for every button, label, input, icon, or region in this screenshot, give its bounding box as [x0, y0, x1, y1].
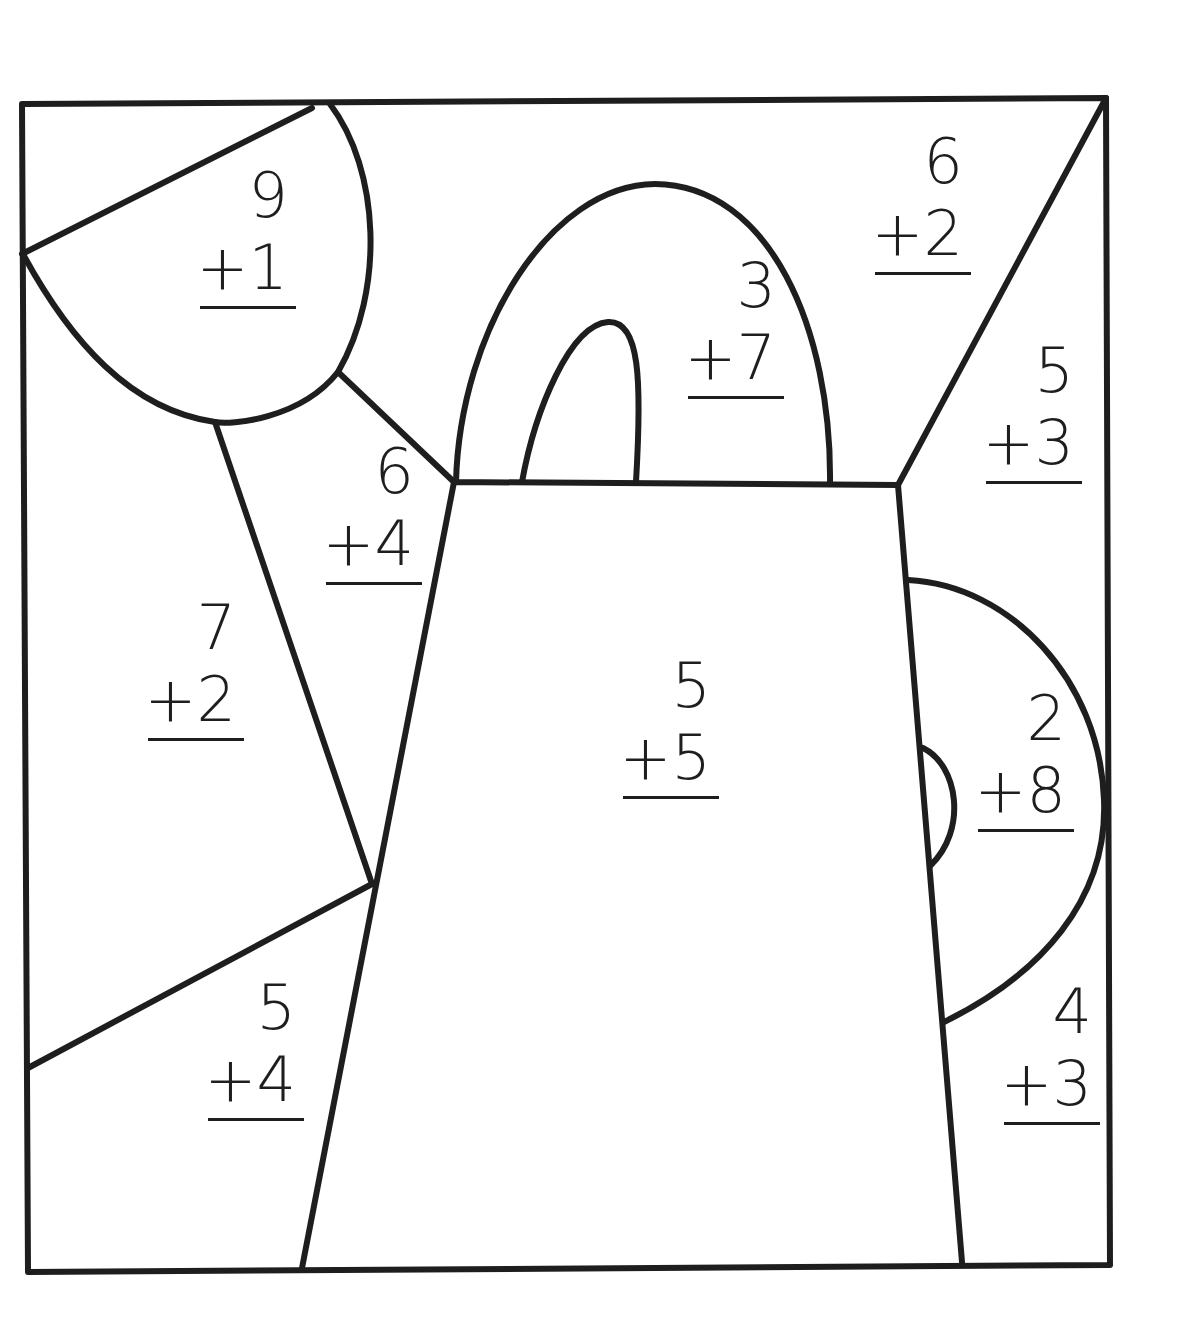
problem-left-side: 7 +2 [130, 592, 250, 741]
problem-bottom-right: 4 +3 [986, 976, 1106, 1125]
coloring-worksheet: 9 +1 3 +7 6 +2 5 +3 6 +4 7 +2 5 +5 2 +8 [0, 0, 1180, 1342]
addend-bottom: +4 [308, 508, 428, 580]
problem-sky-top-right: 6 +2 [857, 126, 977, 275]
answer-line [978, 829, 1074, 832]
answer-line [200, 306, 296, 309]
addend-top: 5 [190, 972, 310, 1044]
addend-bottom: +2 [130, 664, 250, 736]
problem-handle: 3 +7 [670, 250, 790, 399]
problem-side-handle: 2 +8 [960, 683, 1080, 832]
problem-ray-middle: 6 +4 [308, 436, 428, 585]
addend-top: 9 [182, 160, 302, 232]
addend-top: 4 [986, 976, 1106, 1048]
addend-bottom: +3 [968, 407, 1088, 479]
problem-can-body: 5 +5 [605, 650, 725, 799]
answer-line [148, 738, 244, 741]
addend-bottom: +5 [605, 722, 725, 794]
addend-top: 5 [968, 335, 1088, 407]
addend-top: 5 [605, 650, 725, 722]
addend-bottom: +8 [960, 755, 1080, 827]
answer-line [623, 796, 719, 799]
answer-line [875, 272, 971, 275]
addend-top: 2 [960, 683, 1080, 755]
problem-spout-right: 5 +3 [968, 335, 1088, 484]
answer-line [688, 396, 784, 399]
problem-bottom-left: 5 +4 [190, 972, 310, 1121]
problem-sun: 9 +1 [182, 160, 302, 309]
answer-line [1004, 1122, 1100, 1125]
answer-line [986, 481, 1082, 484]
addend-bottom: +7 [670, 322, 790, 394]
addend-top: 6 [308, 436, 428, 508]
addend-top: 3 [670, 250, 790, 322]
addend-bottom: +1 [182, 232, 302, 304]
addend-top: 7 [130, 592, 250, 664]
addend-bottom: +3 [986, 1048, 1106, 1120]
addend-top: 6 [857, 126, 977, 198]
handle-inner-arc [522, 322, 639, 482]
answer-line [208, 1118, 304, 1121]
answer-line [326, 582, 422, 585]
addend-bottom: +2 [857, 198, 977, 270]
addend-bottom: +4 [190, 1044, 310, 1116]
can-body-outline [302, 482, 962, 1268]
